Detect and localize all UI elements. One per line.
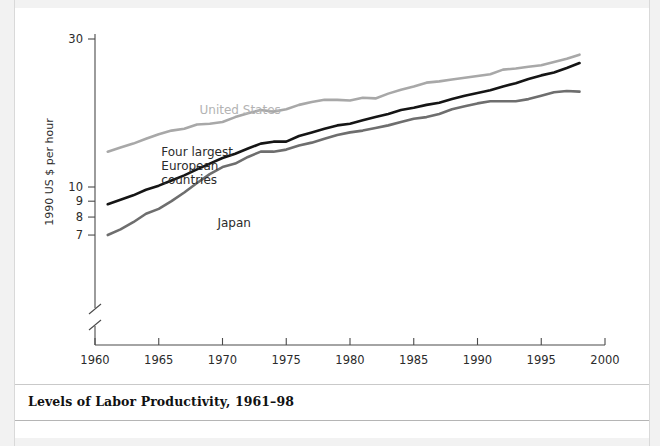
svg-text:Four largest: Four largest	[161, 145, 233, 159]
page-edge-top	[0, 0, 660, 8]
x-tick-label: 2000	[590, 353, 619, 367]
caption-bottom-rule	[15, 420, 649, 421]
series-label-united-states: United States	[200, 103, 281, 117]
page-edge-left	[0, 0, 15, 446]
labor-productivity-line-chart: 7891030196019651970197519801985199019952…	[15, 8, 649, 438]
x-tick-label: 1980	[335, 353, 364, 367]
y-tick-label: 7	[76, 228, 83, 242]
x-tick-label: 1960	[80, 353, 109, 367]
x-tick-label: 1965	[144, 353, 173, 367]
figure-caption: Levels of Labor Productivity, 1961–98	[28, 394, 294, 409]
svg-text:countries: countries	[161, 173, 217, 187]
y-tick-label: 10	[68, 180, 83, 194]
svg-text:European: European	[161, 159, 218, 173]
caption-top-rule	[15, 384, 649, 385]
y-tick-label: 8	[76, 210, 83, 224]
y-tick-label: 30	[68, 32, 83, 46]
y-axis-title: 1990 US $ per hour	[43, 118, 56, 226]
x-tick-label: 1975	[272, 353, 301, 367]
series-line-united-states	[108, 55, 580, 152]
x-tick-label: 1995	[527, 353, 556, 367]
y-axis-ticks: 7891030	[68, 32, 95, 242]
figure-card: 7891030196019651970197519801985199019952…	[15, 8, 649, 438]
x-tick-label: 1970	[208, 353, 237, 367]
x-axis-ticks: 196019651970197519801985199019952000	[80, 338, 619, 367]
x-tick-label: 1990	[463, 353, 492, 367]
page-edge-bottom	[0, 438, 660, 446]
series-label-japan: Japan	[216, 216, 250, 230]
figure-root: 7891030196019651970197519801985199019952…	[0, 0, 660, 446]
x-tick-label: 1985	[399, 353, 428, 367]
y-tick-label: 9	[76, 194, 83, 208]
page-edge-right	[649, 0, 660, 446]
